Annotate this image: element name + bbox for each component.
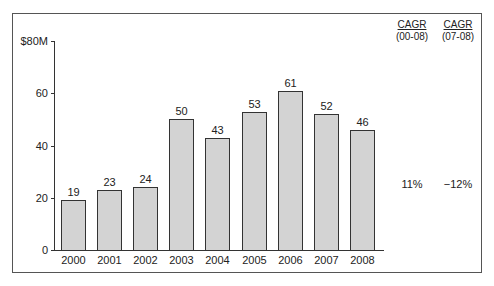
y-tick-label: 40 — [36, 140, 48, 152]
bar-value-label: 46 — [343, 116, 383, 128]
bar-2007 — [314, 114, 339, 250]
bar-value-label: 50 — [162, 105, 202, 117]
cagr-title: CAGR — [433, 19, 483, 31]
x-tick-label: 2002 — [126, 254, 166, 266]
bar-2004 — [205, 138, 230, 250]
y-tick-label: 0 — [42, 244, 48, 256]
cagr-header-07-08: CAGR (07-08) — [433, 19, 483, 43]
bar-2008 — [350, 130, 375, 250]
bar-value-label: 23 — [90, 176, 130, 188]
x-tick-label: 2000 — [54, 254, 94, 266]
bar-value-label: 19 — [54, 186, 94, 198]
y-tick-label: 20 — [36, 192, 48, 204]
bar-2002 — [133, 187, 158, 250]
x-axis-line — [54, 250, 384, 251]
x-tick-label: 2003 — [162, 254, 202, 266]
x-tick-label: 2004 — [198, 254, 238, 266]
y-tick — [51, 146, 55, 147]
cagr-period: (07-08) — [433, 31, 483, 43]
y-tick — [51, 93, 55, 94]
y-tick — [51, 250, 55, 251]
bar-2000 — [61, 200, 86, 250]
x-tick-label: 2005 — [235, 254, 275, 266]
bar-value-label: 53 — [235, 98, 275, 110]
x-tick-label: 2008 — [343, 254, 383, 266]
bar-value-label: 43 — [198, 124, 238, 136]
bar-value-label: 61 — [271, 77, 311, 89]
x-tick-label: 2006 — [271, 254, 311, 266]
cagr-header-00-08: CAGR (00-08) — [387, 19, 437, 43]
bar-2006 — [278, 91, 303, 250]
cagr-value-00-08: 11% — [387, 178, 437, 190]
x-tick-label: 2007 — [307, 254, 347, 266]
y-tick-label: $80M — [20, 35, 48, 47]
bar-value-label: 52 — [307, 100, 347, 112]
bar-2001 — [97, 190, 122, 250]
bar-2003 — [169, 119, 194, 250]
cagr-period: (00-08) — [387, 31, 437, 43]
cagr-title: CAGR — [387, 19, 437, 31]
bar-value-label: 24 — [126, 173, 166, 185]
bar-2005 — [242, 112, 267, 250]
y-tick-label: 60 — [36, 87, 48, 99]
y-tick — [51, 198, 55, 199]
cagr-value-07-08: −12% — [433, 178, 483, 190]
y-tick — [51, 41, 55, 42]
x-tick-label: 2001 — [90, 254, 130, 266]
